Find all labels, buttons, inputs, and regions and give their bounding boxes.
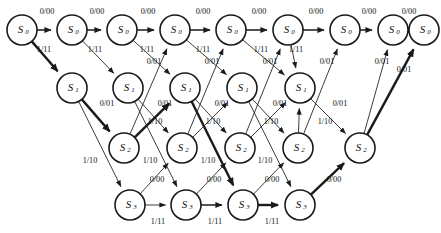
node-subscript-b3: 1 <box>188 86 192 94</box>
node-subscript-b4: 1 <box>245 86 249 94</box>
trellis-node-a1[interactable]: S0 <box>57 15 87 45</box>
trellis-svg: 0/000/000/000/000/000/000/000/001/111/11… <box>0 0 441 233</box>
edge-label-d5-c5: 0/00 <box>265 175 280 184</box>
trellis-node-b1[interactable]: S1 <box>57 73 87 103</box>
node-subscript-c4: 2 <box>243 146 247 154</box>
node-subscript-c6: 2 <box>363 146 367 154</box>
node-label-d4: S <box>182 198 188 210</box>
edge-label-a6-a7: 0/00 <box>362 7 377 16</box>
edge-label-a0-a1: 0/00 <box>40 7 55 16</box>
edge-label-d3-d4: 1/11 <box>151 217 165 226</box>
node-label-d3: S <box>126 198 132 210</box>
edge-label-c5-a6: 0/01 <box>320 57 335 66</box>
edge-label-a3-b4: 1/11 <box>196 45 210 54</box>
edge-label-d3-c3: 0/00 <box>150 175 165 184</box>
node-subscript-d5: 3 <box>245 203 250 211</box>
edge-label-c3-a4: 0/01 <box>205 57 220 66</box>
edge-label-a2-b3: 1/11 <box>140 45 154 54</box>
trellis-edge-c5-to-b5 <box>299 108 300 133</box>
edge-label-b2-d4: 1/10 <box>143 156 158 165</box>
edge-label-a4-b5: 1/11 <box>254 45 268 54</box>
node-subscript-c3: 2 <box>185 146 189 154</box>
node-subscript-a8: 0 <box>427 28 431 36</box>
node-subscript-d3: 3 <box>132 203 137 211</box>
trellis-node-a6[interactable]: S0 <box>330 15 360 45</box>
edge-label-a2-a3: 0/00 <box>141 7 156 16</box>
node-subscript-a5: 0 <box>291 28 295 36</box>
node-label-a8: S <box>420 23 426 35</box>
trellis-node-a5[interactable]: S0 <box>273 15 303 45</box>
edge-label-a7-a8: 0/00 <box>402 7 417 16</box>
node-label-b2: S <box>124 81 130 93</box>
node-label-a6: S <box>341 23 347 35</box>
node-label-c3: S <box>178 141 184 153</box>
edge-label-b2-c3: 0/01 <box>158 99 173 108</box>
trellis-node-b4[interactable]: S1 <box>227 73 257 103</box>
node-label-a5: S <box>284 23 290 35</box>
node-subscript-b1: 1 <box>75 86 79 94</box>
node-subscript-c2: 2 <box>127 146 131 154</box>
edge-layer <box>32 30 414 205</box>
node-label-d5: S <box>239 198 245 210</box>
trellis-node-a4[interactable]: S0 <box>216 15 246 45</box>
edge-label-c5-b5: 1/10 <box>318 117 333 126</box>
trellis-node-c5[interactable]: S2 <box>283 133 313 163</box>
trellis-node-d6[interactable]: S3 <box>285 190 315 220</box>
node-subscript-a7: 0 <box>396 28 400 36</box>
trellis-node-d4[interactable]: S3 <box>171 190 201 220</box>
trellis-node-b2[interactable]: S1 <box>113 73 143 103</box>
edge-label-b1-d3: 1/10 <box>83 156 98 165</box>
trellis-node-a0[interactable]: S0 <box>7 15 37 45</box>
edge-label-c4-a5: 0/01 <box>263 57 278 66</box>
edge-label-d4-d5: 1/11 <box>208 217 222 226</box>
trellis-diagram-canvas: 0/000/000/000/000/000/000/000/001/111/11… <box>0 0 441 233</box>
node-subscript-d4: 3 <box>188 203 193 211</box>
trellis-node-a7[interactable]: S0 <box>378 15 408 45</box>
node-label-a0: S <box>18 23 24 35</box>
node-label-c5: S <box>294 141 300 153</box>
edge-label-b3-c4: 0/01 <box>215 99 230 108</box>
trellis-node-b3[interactable]: S1 <box>170 73 200 103</box>
edge-label-c2-a3: 0/01 <box>147 57 162 66</box>
edge-label-a3-a4: 0/00 <box>196 7 211 16</box>
edge-label-c2-b3: 1/10 <box>148 117 163 126</box>
edge-label-b3-d5: 1/10 <box>201 156 216 165</box>
edge-label-a5-a6: 0/00 <box>309 7 324 16</box>
node-label-d6: S <box>296 198 302 210</box>
node-subscript-b5: 1 <box>303 86 307 94</box>
edge-label-c6-a7: 0/01 <box>375 57 390 66</box>
trellis-node-a3[interactable]: S0 <box>160 15 190 45</box>
node-label-a1: S <box>68 23 74 35</box>
trellis-node-a2[interactable]: S0 <box>107 15 137 45</box>
edge-label-c4-b5: 1/10 <box>264 117 279 126</box>
node-subscript-a6: 0 <box>348 28 352 36</box>
node-subscript-d6: 3 <box>302 203 307 211</box>
edge-label-d4-c4: 0/00 <box>207 175 222 184</box>
trellis-node-d3[interactable]: S3 <box>115 190 145 220</box>
trellis-node-c3[interactable]: S2 <box>167 133 197 163</box>
node-subscript-a3: 0 <box>178 28 182 36</box>
node-subscript-a4: 0 <box>234 28 238 36</box>
trellis-node-a8[interactable]: S0 <box>409 15 439 45</box>
node-label-a4: S <box>227 23 233 35</box>
trellis-node-d5[interactable]: S3 <box>228 190 258 220</box>
node-label-a3: S <box>171 23 177 35</box>
node-label-b1: S <box>68 81 74 93</box>
edge-label-a4-a5: 0/00 <box>252 7 267 16</box>
edge-label-a1-b2: 1/11 <box>88 45 102 54</box>
node-layer: S0S0S0S0S0S0S0S0S0S1S1S1S1S1S2S2S2S2S2S3… <box>7 15 439 220</box>
node-label-b4: S <box>238 81 244 93</box>
node-label-b3: S <box>181 81 187 93</box>
trellis-node-c6[interactable]: S2 <box>345 133 375 163</box>
edge-label-c3-b4: 1/10 <box>206 117 221 126</box>
trellis-node-c4[interactable]: S2 <box>225 133 255 163</box>
node-subscript-a1: 0 <box>75 28 79 36</box>
node-subscript-a2: 0 <box>125 28 129 36</box>
edge-label-b4-d6: 1/10 <box>258 156 273 165</box>
edge-label-a1-a2: 0/00 <box>90 7 105 16</box>
edge-label-a5-b5: 1/11 <box>289 45 303 54</box>
edge-label-d5-d6: 1/11 <box>265 217 279 226</box>
node-label-a7: S <box>389 23 395 35</box>
trellis-node-c2[interactable]: S2 <box>109 133 139 163</box>
trellis-node-b5[interactable]: S1 <box>285 73 315 103</box>
